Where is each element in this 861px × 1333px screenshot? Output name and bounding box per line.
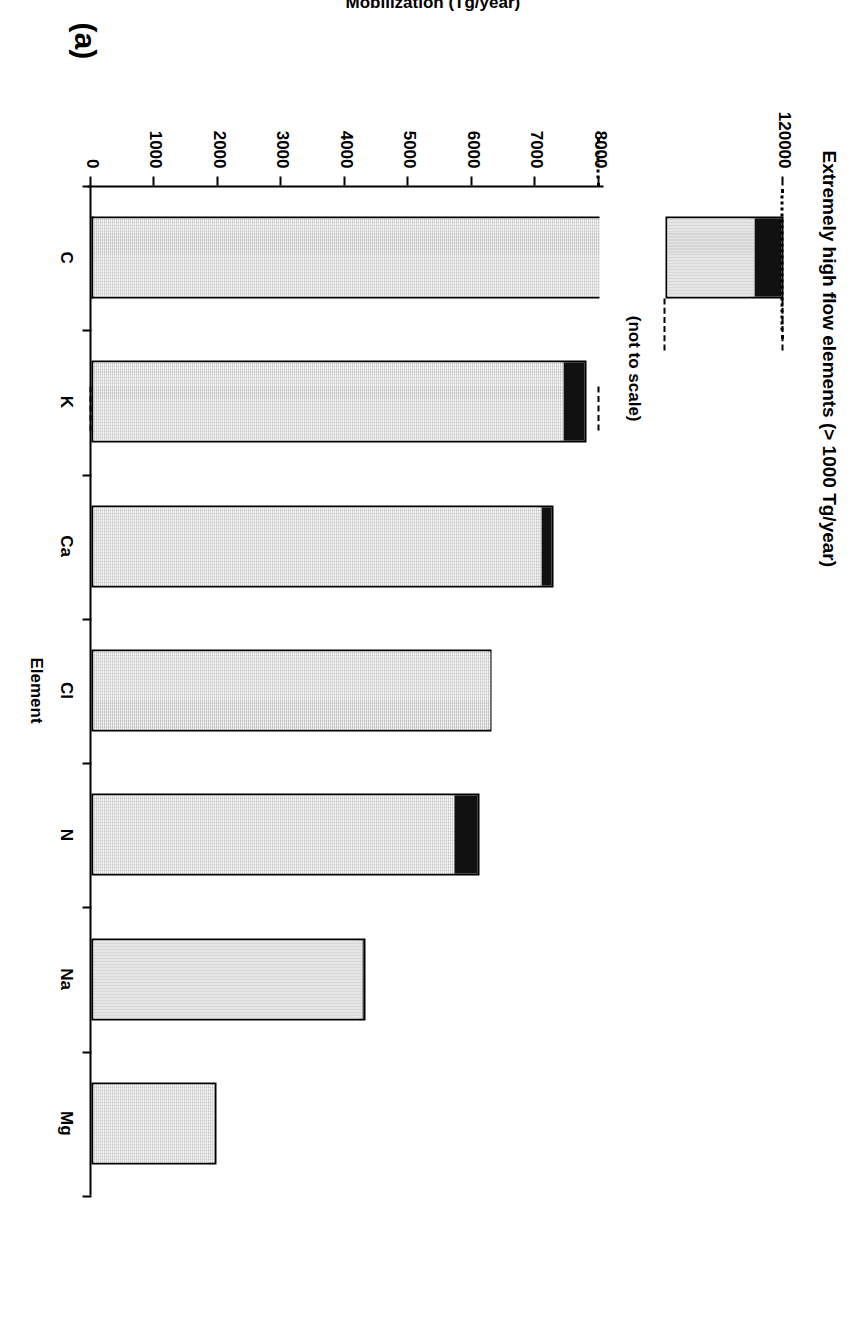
x-tick-label-k: K [55,395,75,407]
bar-mg [91,1082,216,1164]
plot-area: 010002000300040005000600070008000 CKCaCl… [0,0,861,1333]
rotated-figure-container: (a) Extremely high flow elements (> 1000… [0,0,861,1333]
x-axis-title: Element [25,657,45,723]
y-tick-label: 1000 [145,130,165,168]
y-tick [470,176,472,185]
inset-axis-tick-label: 120000 [773,111,793,168]
figure: (a) Extremely high flow elements (> 1000… [0,0,861,1333]
bar-n [91,793,479,875]
bar-na [91,938,365,1020]
y-tick-label: 7000 [526,130,546,168]
y-tick-label: 6000 [462,130,482,168]
y-tick [407,176,409,185]
bar-natural-segment [93,795,454,873]
break-dash-main-1 [89,386,91,430]
x-tick [82,762,91,764]
y-tick [153,176,155,185]
y-axis-title: Mobilization (Tg/year) [345,0,520,12]
bar-natural-segment [93,362,563,440]
y-tick [534,176,536,185]
y-tick [343,176,345,185]
y-tick-label: 4000 [335,130,355,168]
x-tick [82,1195,91,1197]
x-tick-label-mg: Mg [55,1111,75,1136]
x-tick [82,618,91,620]
axis-break-leader-dotted [596,138,599,186]
bar-natural-segment [93,651,490,729]
y-tick [280,176,282,185]
y-tick-label: 5000 [399,130,419,168]
bar-cl [91,649,491,731]
bar-natural-segment [93,1084,214,1162]
bar-k [91,360,586,442]
bar-natural-segment [93,940,362,1018]
break-dash-main-0 [597,386,599,430]
x-tick-label-cl: Cl [55,682,75,699]
break-dash-inset-1 [663,298,665,350]
inset-axis-tick [781,176,783,185]
x-tick [82,906,91,908]
bar-natural-segment [93,218,599,296]
x-tick-label-na: Na [55,968,75,990]
x-tick-label-c: C [55,251,75,263]
x-tick [82,185,91,187]
y-tick-label: 0 [81,159,101,168]
bar-c [91,216,599,298]
x-tick [82,329,91,331]
inset-bar-anthropogenic-segment [750,218,781,296]
bar-ca [91,505,553,587]
inset-bar-natural-segment [667,218,754,296]
not-to-scale-note: (not to scale) [623,315,643,421]
inset-leader-dotted [780,188,783,338]
y-tick-label: 2000 [208,130,228,168]
figure-page: (a) Extremely high flow elements (> 1000… [0,0,861,1333]
y-tick-label: 3000 [272,130,292,168]
x-tick [82,1051,91,1053]
x-tick-label-ca: Ca [55,535,75,557]
x-tick [82,474,91,476]
x-tick-label-n: N [55,828,75,840]
y-tick [89,176,91,185]
inset-bar-carbon [665,216,783,298]
bar-natural-segment [93,507,541,585]
y-tick [216,176,218,185]
